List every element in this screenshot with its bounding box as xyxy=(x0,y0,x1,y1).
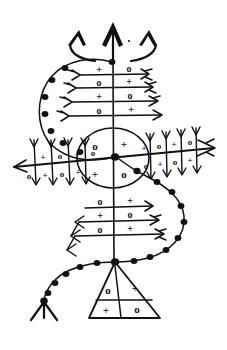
svg-text:o: o xyxy=(98,196,103,207)
svg-text:+: + xyxy=(127,195,133,206)
svg-text:o: o xyxy=(128,209,133,220)
svg-text:+: + xyxy=(40,152,45,162)
svg-text:o: o xyxy=(128,90,133,101)
svg-text:+: + xyxy=(121,138,127,150)
svg-text:o: o xyxy=(58,151,63,161)
svg-text:o: o xyxy=(121,168,127,180)
svg-text:+: + xyxy=(141,143,146,153)
svg-text:+: + xyxy=(126,76,132,87)
svg-text:+: + xyxy=(97,210,103,221)
svg-text:o: o xyxy=(157,141,162,151)
svg-text:o: o xyxy=(105,284,111,296)
svg-text:+: + xyxy=(128,104,134,115)
svg-text:o: o xyxy=(134,303,140,315)
svg-text:o: o xyxy=(144,161,149,171)
svg-text:+: + xyxy=(127,223,133,234)
svg-text:o: o xyxy=(60,169,65,179)
svg-text:+: + xyxy=(157,159,162,169)
artwork-canvas: + o o + + o o + o + + o xyxy=(0,0,227,350)
svg-text:+: + xyxy=(96,64,102,75)
svg-text:+: + xyxy=(92,168,98,180)
svg-text:o: o xyxy=(98,224,103,235)
svg-text:+: + xyxy=(96,91,102,102)
svg-text:+: + xyxy=(42,170,47,180)
svg-text:o: o xyxy=(127,63,132,74)
svg-text:o: o xyxy=(173,157,178,167)
svg-text:o: o xyxy=(97,77,102,88)
svg-text:o: o xyxy=(27,171,32,181)
svg-text:o: o xyxy=(91,148,96,158)
svg-text:+: + xyxy=(103,304,109,316)
svg-text:+: + xyxy=(187,155,192,165)
svg-text:+: + xyxy=(171,139,176,149)
svg-text:o: o xyxy=(188,137,193,147)
svg-text:+: + xyxy=(75,167,80,177)
svg-text:+: + xyxy=(74,149,79,159)
svg-text:o: o xyxy=(97,105,102,116)
svg-text:+: + xyxy=(132,282,138,294)
veve-drawing: + o o + + o o + o + + o xyxy=(0,0,227,350)
main-vertical-spine xyxy=(113,60,114,262)
